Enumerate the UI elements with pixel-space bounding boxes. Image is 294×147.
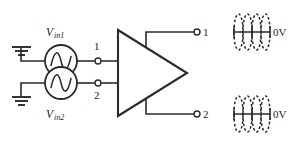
output-terminal-1-node[interactable] — [194, 29, 200, 35]
amplifier-body — [118, 30, 187, 116]
source-1-label-subscript: in1 — [54, 31, 64, 40]
output-waveform-2: 0V — [234, 96, 287, 132]
output-terminal-2-label: 2 — [203, 108, 209, 120]
output-1-wire — [146, 32, 193, 47]
ground-1 — [12, 47, 44, 61]
output-terminal-2: 2 — [146, 99, 209, 120]
output-waveform-1: 0V — [234, 14, 287, 50]
input-terminal-2-label: 2 — [94, 89, 100, 101]
input-terminal-2-node[interactable] — [95, 80, 101, 86]
output-2-wire — [146, 99, 193, 114]
output-terminal-1-label: 1 — [203, 26, 209, 38]
input-terminal-2: 2 — [77, 80, 118, 101]
input-terminal-1: 1 — [77, 40, 118, 64]
waveform-1-axis-label: 0V — [273, 26, 287, 38]
amplifier-triangle[interactable] — [118, 30, 187, 116]
output-terminal-2-node[interactable] — [194, 111, 200, 117]
input-terminal-1-node[interactable] — [95, 58, 101, 64]
circuit-canvas: V in1 1 V in2 2 1 — [0, 0, 294, 147]
output-terminal-1: 1 — [146, 26, 209, 47]
ground-2-wire — [21, 83, 44, 97]
ground-1-wire — [21, 47, 44, 61]
source-2-label-subscript: in2 — [54, 113, 64, 122]
ground-2 — [12, 83, 44, 105]
waveform-2-axis-label: 0V — [273, 108, 287, 120]
source-2: V in2 — [45, 67, 77, 122]
input-terminal-1-label: 1 — [94, 40, 100, 52]
circuit-diagram: V in1 1 V in2 2 1 — [0, 0, 294, 147]
